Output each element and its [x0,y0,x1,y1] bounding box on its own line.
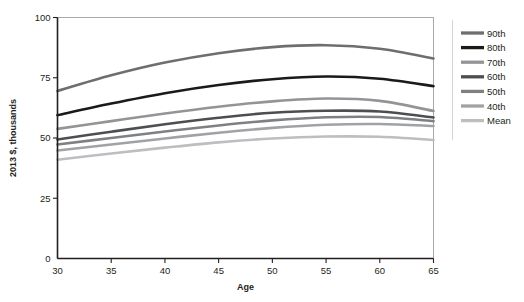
y-tick-label: 100 [35,12,51,23]
legend-item-mean[interactable]: Mean [461,115,511,126]
y-tick-label: 75 [40,72,51,83]
series-group [58,45,434,160]
line-chart: 02550751003035404550556065Age2013 $, tho… [0,0,524,302]
legend-label-70th: 70th [487,57,506,68]
x-tick-label: 40 [160,265,171,276]
x-tick-label: 45 [213,265,224,276]
x-tick-label: 55 [321,265,332,276]
y-axis-title: 2013 $, thousands [8,99,18,177]
series-line-mean [58,136,434,159]
x-tick-label: 30 [52,265,63,276]
legend-label-50th: 50th [487,86,506,97]
x-axis-title: Age [237,282,254,292]
x-tick-label: 60 [374,265,385,276]
series-line-90th [58,45,434,91]
legend-label-60th: 60th [487,71,506,82]
legend-item-70th[interactable]: 70th [461,57,506,68]
y-tick-label: 25 [40,193,51,204]
legend-label-40th: 40th [487,101,506,112]
legend-label-80th: 80th [487,42,506,53]
x-tick-label: 35 [106,265,117,276]
x-tick-label: 50 [267,265,278,276]
legend-item-40th[interactable]: 40th [461,101,506,112]
legend-item-50th[interactable]: 50th [461,86,506,97]
chart-container: 02550751003035404550556065Age2013 $, tho… [0,0,524,302]
y-tick-label: 0 [45,253,50,264]
series-line-80th [58,77,434,116]
legend-item-60th[interactable]: 60th [461,71,506,82]
x-tick-label: 65 [428,265,439,276]
legend-label-mean: Mean [487,115,511,126]
legend-item-90th[interactable]: 90th [461,28,506,39]
legend-item-80th[interactable]: 80th [461,42,506,53]
legend: 90th80th70th60th50th40thMean [461,28,511,127]
y-tick-label: 50 [40,132,51,143]
legend-label-90th: 90th [487,28,506,39]
